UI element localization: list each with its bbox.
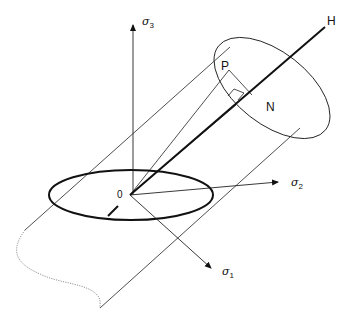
hydrostatic-axis bbox=[130, 27, 325, 195]
sigma3-symbol: σ bbox=[142, 15, 150, 28]
h-label: H bbox=[327, 15, 336, 27]
n-label: N bbox=[266, 101, 275, 113]
sigma3-label: σ3 bbox=[142, 16, 154, 30]
sigma2-label: σ2 bbox=[291, 177, 303, 191]
sigma1-symbol: σ bbox=[222, 265, 230, 278]
sigma2-subscript: 2 bbox=[299, 182, 303, 191]
diagram-svg bbox=[0, 0, 350, 324]
yield-surface-diagram: σ3 σ2 σ1 H 0 P N bbox=[0, 0, 350, 324]
sigma1-label: σ1 bbox=[222, 266, 234, 280]
cylinder-top-ellipse bbox=[196, 18, 347, 158]
sigma2-symbol: σ bbox=[291, 176, 299, 189]
sigma3-subscript: 3 bbox=[150, 21, 154, 30]
p-label: P bbox=[221, 60, 229, 72]
origin-label: 0 bbox=[117, 190, 123, 200]
principal-axes bbox=[108, 25, 278, 268]
sigma1-subscript: 1 bbox=[230, 271, 234, 280]
